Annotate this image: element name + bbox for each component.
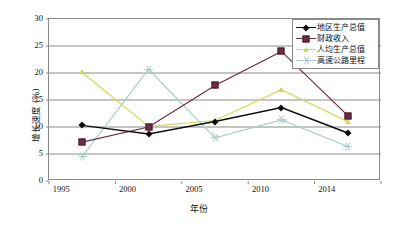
data-point-marker	[144, 65, 153, 74]
x-tick-label: 2010	[240, 184, 280, 194]
data-point-marker	[344, 112, 351, 119]
chart-figure: 增长速度 (%) 年份 051015202530 199520002005201…	[0, 0, 397, 230]
legend-marker-diamond-icon	[295, 22, 317, 33]
legend-marker-star-icon	[295, 55, 317, 66]
data-point-marker	[211, 133, 220, 142]
x-tick-label: 2000	[108, 184, 148, 194]
x-tick-label: 2005	[174, 184, 214, 194]
y-tick-label: 15	[19, 94, 43, 104]
data-point-marker	[343, 142, 352, 151]
data-point-marker	[278, 87, 284, 92]
x-tick-label: 1995	[41, 184, 81, 194]
x-axis-title: 年份	[0, 202, 397, 215]
y-tick-label: 25	[19, 40, 43, 50]
data-point-marker	[277, 115, 286, 124]
x-tick-label: 2014	[307, 184, 347, 194]
legend-item[interactable]: 人均生产总值	[295, 44, 376, 55]
legend-marker-triangle-icon	[295, 44, 317, 55]
y-tick-label: 5	[19, 148, 43, 158]
legend-marker	[302, 24, 309, 31]
legend-marker	[302, 56, 311, 65]
legend-marker	[303, 35, 310, 42]
data-point-marker	[278, 48, 285, 55]
y-tick-label: 10	[19, 121, 43, 131]
legend-item[interactable]: 财政收入	[295, 33, 376, 44]
legend-label: 财政收入	[317, 33, 349, 44]
legend-label: 人均生产总值	[317, 44, 365, 55]
data-point-marker	[78, 152, 87, 161]
legend-marker	[303, 47, 309, 52]
data-point-marker	[79, 139, 86, 146]
y-tick-label: 0	[19, 175, 43, 185]
chart-legend: 地区生产总值财政收入人均生产总值高速公路里程	[292, 19, 379, 69]
legend-item[interactable]: 地区生产总值	[295, 22, 376, 33]
data-point-marker	[79, 70, 85, 75]
data-point-marker	[345, 119, 351, 124]
y-tick-label: 30	[19, 13, 43, 23]
legend-label: 地区生产总值	[317, 22, 365, 33]
legend-label: 高速公路里程	[317, 55, 365, 66]
legend-marker-square-icon	[295, 33, 317, 44]
legend-item[interactable]: 高速公路里程	[295, 55, 376, 66]
data-point-marker	[212, 82, 219, 89]
y-tick-label: 20	[19, 67, 43, 77]
